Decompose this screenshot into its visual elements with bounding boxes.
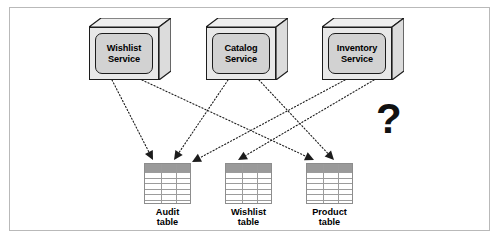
service-label: Wishlist Service <box>107 43 141 64</box>
question-mark-icon: ? <box>376 98 402 140</box>
db-table-row <box>307 189 352 190</box>
db-table-header-row <box>307 164 352 172</box>
db-table-row <box>145 200 190 201</box>
service-box-face: Catalog Service <box>206 27 276 80</box>
db-table-column-divider <box>242 164 243 203</box>
db-table-row <box>307 172 352 173</box>
service-label: Inventory Service <box>337 43 377 64</box>
db-table-column-divider <box>323 164 324 203</box>
db-table-row <box>145 194 190 195</box>
db-table-row <box>145 172 190 173</box>
db-table-row <box>226 194 271 195</box>
service-box-face: Wishlist Service <box>89 27 159 80</box>
db-table-column-divider <box>161 164 162 203</box>
db-table-grid <box>225 163 272 204</box>
db-table-row <box>226 189 271 190</box>
db-table-row <box>226 172 271 173</box>
db-table-label: Wishlist table <box>225 207 272 228</box>
service-box-inventory-service: Inventory Service <box>322 18 404 80</box>
db-table-row <box>145 183 190 184</box>
db-table-header-row <box>226 164 271 172</box>
service-box-screen: Inventory Service <box>328 33 386 74</box>
db-table-grid <box>306 163 353 204</box>
db-table-wishlist-table: Wishlist table <box>225 163 272 228</box>
db-table-row <box>226 183 271 184</box>
db-table-row <box>307 200 352 201</box>
service-box-screen: Catalog Service <box>212 33 270 74</box>
diagram-canvas: Wishlist ServiceCatalog ServiceInventory… <box>0 0 502 243</box>
db-table-column-divider <box>338 164 339 203</box>
service-box-face: Inventory Service <box>322 27 392 80</box>
service-box-screen: Wishlist Service <box>95 33 153 74</box>
db-table-row <box>145 178 190 179</box>
db-table-audit-table: Audit table <box>144 163 191 228</box>
db-table-row <box>307 194 352 195</box>
db-table-label: Product table <box>306 207 353 228</box>
service-label: Catalog Service <box>225 43 258 64</box>
db-table-row <box>226 178 271 179</box>
service-box-catalog-service: Catalog Service <box>206 18 288 80</box>
db-table-row <box>307 178 352 179</box>
db-table-row <box>145 189 190 190</box>
db-table-row <box>226 200 271 201</box>
db-table-grid <box>144 163 191 204</box>
db-table-product-table: Product table <box>306 163 353 228</box>
db-table-row <box>307 183 352 184</box>
db-table-header-row <box>145 164 190 172</box>
db-table-column-divider <box>257 164 258 203</box>
db-table-label: Audit table <box>144 207 191 228</box>
db-table-column-divider <box>176 164 177 203</box>
service-box-wishlist-service: Wishlist Service <box>89 18 171 80</box>
